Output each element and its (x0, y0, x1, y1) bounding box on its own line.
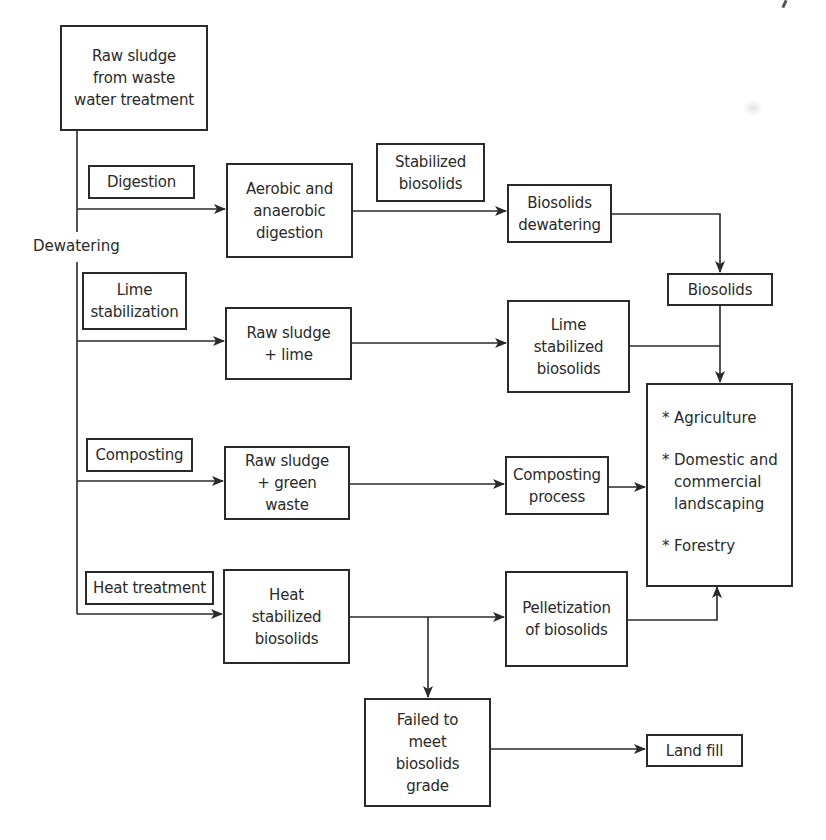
heat-stabilized-biosolids-box: Heat stabilized biosolids (223, 569, 350, 664)
biosolids-box: Biosolids (667, 273, 773, 306)
scan-smudge (743, 100, 763, 116)
raw-sludge-lime-box: Raw sludge + lime (225, 307, 352, 380)
heat-treatment-label-box: Heat treatment (85, 571, 214, 605)
bullet-asterisk: * (662, 535, 674, 557)
raw-sludge-box: Raw sludge from waste water treatment (60, 25, 208, 131)
stabilized-biosolids-label-box: Stabilized biosolids (376, 143, 485, 202)
lime-stabilization-label-box: Lime stabilization (82, 272, 187, 330)
composting-label-box: Composting (86, 438, 193, 472)
end-uses-box: * Agriculture * Domestic and commercial … (646, 383, 793, 587)
aerobic-digestion-box: Aerobic and anaerobic digestion (226, 163, 353, 258)
failed-grade-box: Failed to meet biosolids grade (364, 698, 491, 807)
digestion-label-box: Digestion (88, 165, 195, 199)
landfill-box: Land fill (646, 734, 743, 767)
biosolids-dewatering-box: Biosolids dewatering (507, 184, 612, 243)
pelletization-box: Pelletization of biosolids (505, 571, 628, 667)
bullet-asterisk: * (662, 449, 674, 515)
end-use-forestry: * Forestry (662, 535, 783, 557)
lime-stabilized-biosolids-box: Lime stabilized biosolids (507, 300, 630, 393)
bullet-asterisk: * (662, 407, 674, 429)
end-use-landscaping: * Domestic and commercial landscaping (662, 449, 783, 515)
raw-sludge-green-waste-box: Raw sludge + green waste (224, 446, 350, 520)
end-use-agriculture: * Agriculture (662, 407, 783, 429)
biosolids-process-flowchart: Raw sludge from waste water treatment De… (0, 0, 826, 840)
dewatering-label: Dewatering (31, 236, 122, 256)
composting-process-box: Composting process (505, 456, 609, 515)
